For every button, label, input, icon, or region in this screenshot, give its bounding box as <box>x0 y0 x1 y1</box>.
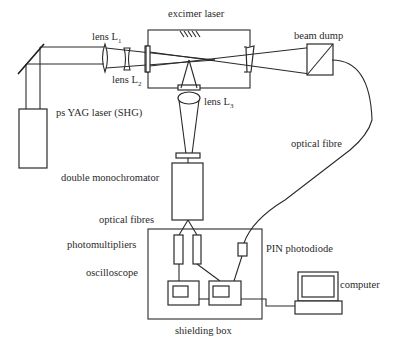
excimer-beam <box>150 45 332 74</box>
label-optical-fibres: optical fibres <box>99 215 154 226</box>
lens-l3-sub: 3 <box>230 102 234 110</box>
oscilloscope-1 <box>168 281 199 305</box>
photomultiplier-1 <box>174 235 183 264</box>
lens-l3-icon <box>178 92 200 104</box>
setup-diagram: excimer laser beam dump lens L1 lens L2 … <box>0 0 400 351</box>
photomultiplier-2 <box>193 235 201 264</box>
optical-fibre-line <box>244 60 372 243</box>
beam-dump <box>307 44 333 75</box>
label-lens-l2: lens L2 <box>112 75 141 88</box>
lens-l1-icon <box>103 44 108 72</box>
label-beam-dump: beam dump <box>294 31 343 42</box>
label-photomultipliers: photomultipliers <box>67 240 136 251</box>
label-double-monochromator: double monochromator <box>61 173 159 184</box>
lens-l2-sub: 2 <box>138 80 142 88</box>
label-optical-fibre: optical fibre <box>291 139 342 150</box>
label-lens-l3: lens L3 <box>204 97 233 110</box>
label-pin-photodiode: PIN photodiode <box>266 244 333 255</box>
optical-fibres <box>179 220 197 235</box>
monochromator-slit <box>176 153 200 158</box>
label-lens-l1: lens L1 <box>92 32 121 45</box>
double-monochromator <box>172 163 203 220</box>
diagram-canvas <box>0 0 400 351</box>
label-oscilloscope: oscilloscope <box>86 268 138 279</box>
lens-l3-text: lens L <box>204 96 230 107</box>
fluorescence-path <box>179 60 199 154</box>
yag-laser <box>19 47 47 168</box>
lens-l1-sub: 1 <box>118 37 122 45</box>
lens-l1-text: lens L <box>92 31 118 42</box>
label-yag-laser: ps YAG laser (SHG) <box>56 108 142 119</box>
lens-l2-text: lens L <box>112 74 138 85</box>
label-excimer-laser: excimer laser <box>168 9 224 20</box>
computer-icon <box>295 272 342 314</box>
oscilloscope-2 <box>209 281 241 305</box>
label-shielding-box: shielding box <box>175 326 232 337</box>
label-computer: computer <box>340 280 380 291</box>
pin-photodiode <box>238 243 247 256</box>
